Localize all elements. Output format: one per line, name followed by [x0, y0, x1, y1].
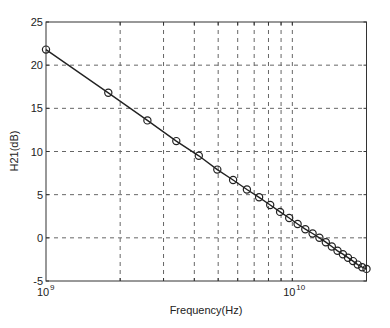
- x-axis-tick-labels: 1091010: [37, 283, 306, 298]
- y-tick-label: 5: [37, 189, 43, 201]
- x-tick-label: 10: [283, 286, 295, 298]
- x-tick-exponent: 9: [50, 283, 55, 292]
- y-tick-label: 25: [31, 16, 43, 28]
- y-tick-label: 20: [31, 59, 43, 71]
- x-tick-exponent: 10: [296, 283, 305, 292]
- grid-lines: [46, 22, 367, 281]
- y-tick-label: 15: [31, 102, 43, 114]
- y-axis-label: H21(dB): [8, 131, 20, 172]
- y-tick-label: 0: [37, 232, 43, 244]
- x-tick-label: 10: [37, 286, 49, 298]
- series-line: [46, 50, 367, 269]
- x-axis-label: Frequency(Hz): [170, 304, 243, 316]
- y-tick-label: 10: [31, 146, 43, 158]
- y-axis-tick-labels: -50510152025: [31, 16, 43, 287]
- h21-frequency-chart: -50510152025 1091010 Frequency(Hz) H21(d…: [0, 0, 390, 328]
- data-series: [42, 46, 370, 273]
